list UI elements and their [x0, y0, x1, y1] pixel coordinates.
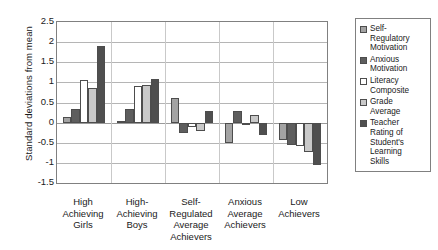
- x-axis-label: AnxiousAverageAchievers: [214, 196, 276, 231]
- bar: [171, 98, 180, 122]
- legend-label-line: Self-: [370, 24, 410, 34]
- legend-swatch-icon: [360, 120, 367, 127]
- bar: [63, 117, 72, 122]
- bar: [117, 121, 126, 123]
- bar: [296, 123, 305, 146]
- x-axis-label-line: Anxious: [214, 196, 276, 208]
- bar: [304, 123, 313, 152]
- x-axis-label-line: Boys: [106, 219, 168, 231]
- y-tick-label: -1.5: [14, 177, 54, 187]
- legend-swatch-icon: [360, 99, 367, 106]
- legend-item[interactable]: Self-RegulatoryMotivation: [360, 24, 427, 53]
- y-tick-label: 1.5: [14, 56, 54, 66]
- y-tick-label: 0: [14, 117, 54, 127]
- bar: [233, 111, 242, 122]
- bar-chart: Standard deviations from mean 2.521.510.…: [0, 0, 438, 250]
- legend-label: AnxiousMotivation: [370, 55, 407, 74]
- x-axis-label-line: Average: [214, 208, 276, 220]
- legend-label-line: Motivation: [370, 43, 410, 53]
- bar: [196, 123, 205, 132]
- group-separator: [273, 22, 274, 183]
- y-tick-label: 1: [14, 76, 54, 86]
- y-tick-label: -0.5: [14, 137, 54, 147]
- x-axis-label: LowAchievers: [268, 196, 330, 219]
- legend-label-line: Regulatory: [370, 34, 410, 44]
- legend-swatch-icon: [360, 78, 367, 85]
- x-axis-label-line: Achievers: [214, 219, 276, 231]
- legend-label-line: Composite: [370, 86, 409, 96]
- bar: [88, 88, 97, 123]
- bar: [125, 109, 134, 123]
- legend-label-line: Rating of: [370, 128, 404, 138]
- bar: [134, 86, 143, 122]
- x-axis-label-line: Achieving: [106, 208, 168, 220]
- bar: [225, 123, 234, 143]
- bar: [279, 123, 288, 140]
- chart-legend: Self-RegulatoryMotivationAnxiousMotivati…: [355, 18, 431, 172]
- x-axis-category-labels: HighAchievingGirlsHigh-AchievingBoysSelf…: [56, 196, 328, 250]
- legend-label-line: Skills: [370, 157, 404, 167]
- legend-item[interactable]: AnxiousMotivation: [360, 55, 427, 74]
- y-tick-label: 0.5: [14, 97, 54, 107]
- y-tick-label: -1: [14, 157, 54, 167]
- legend-label-line: Motivation: [370, 64, 407, 74]
- x-axis-label-line: High: [52, 196, 114, 208]
- group-separator: [219, 22, 220, 183]
- bar: [259, 123, 268, 135]
- group-separator: [165, 22, 166, 183]
- legend-item[interactable]: LiteracyComposite: [360, 76, 427, 95]
- x-axis-label: HighAchievingGirls: [52, 196, 114, 231]
- x-axis-label-line: Achievers: [160, 231, 222, 243]
- bar: [151, 79, 160, 122]
- legend-label-line: Learning: [370, 147, 404, 157]
- bar: [313, 123, 322, 165]
- y-tick-label: 2.5: [14, 16, 54, 26]
- legend-swatch-icon: [360, 26, 367, 33]
- legend-label: LiteracyComposite: [370, 76, 409, 95]
- bar: [242, 123, 251, 125]
- bar: [250, 115, 259, 122]
- x-axis-label-line: Achieving: [52, 208, 114, 220]
- legend-label: GradeAverage: [370, 97, 400, 116]
- x-axis-label: Self-RegulatedAverageAchievers: [160, 196, 222, 242]
- x-axis-label-line: High-: [106, 196, 168, 208]
- legend-swatch-icon: [360, 57, 367, 64]
- legend-item[interactable]: TeacherRating ofStudent'sLearningSkills: [360, 118, 427, 166]
- legend-label: Self-RegulatoryMotivation: [370, 24, 410, 53]
- x-axis-label-line: Average: [160, 219, 222, 231]
- legend-label-line: Average: [370, 107, 400, 117]
- x-axis-label-line: Self-: [160, 196, 222, 208]
- legend-label-line: Literacy: [370, 76, 409, 86]
- bar: [179, 123, 188, 133]
- x-axis-label-line: Regulated: [160, 208, 222, 220]
- y-tick-label: 2: [14, 36, 54, 46]
- gridline: [57, 42, 327, 43]
- legend-label-line: Anxious: [370, 55, 407, 65]
- x-axis-label: High-AchievingBoys: [106, 196, 168, 231]
- x-axis-label-line: Girls: [52, 219, 114, 231]
- legend-label-line: Teacher: [370, 118, 404, 128]
- legend-label-line: Student's: [370, 138, 404, 148]
- bar: [287, 123, 296, 145]
- group-separator: [111, 22, 112, 183]
- plot-area: [56, 21, 328, 184]
- bar: [188, 123, 197, 128]
- legend-label-line: Grade: [370, 97, 400, 107]
- legend-label: TeacherRating ofStudent'sLearningSkills: [370, 118, 404, 166]
- gridline: [57, 163, 327, 164]
- bar: [71, 109, 80, 123]
- bar: [97, 46, 106, 122]
- legend-item[interactable]: GradeAverage: [360, 97, 427, 116]
- bar: [80, 80, 89, 122]
- bar: [205, 111, 214, 123]
- x-axis-label-line: Low: [268, 196, 330, 208]
- x-axis-label-line: Achievers: [268, 208, 330, 220]
- bar: [142, 85, 151, 122]
